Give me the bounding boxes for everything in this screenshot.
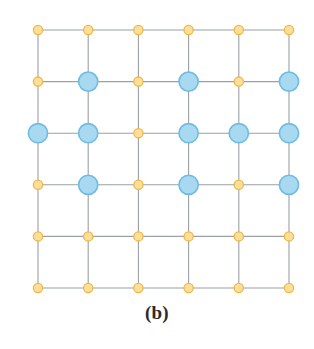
lattice-diagram [0, 0, 314, 310]
plain-site-node [33, 25, 42, 34]
plain-site-node [284, 25, 293, 34]
plain-site-node [234, 283, 243, 292]
plain-site-node [184, 25, 193, 34]
plain-site-node [284, 232, 293, 241]
plain-site-node [234, 25, 243, 34]
plain-site-node [184, 232, 193, 241]
plain-site-node [134, 77, 143, 86]
plain-site-node [234, 180, 243, 189]
plain-site-node [134, 25, 143, 34]
plain-site-node [234, 232, 243, 241]
plain-site-node [33, 283, 42, 292]
plain-site-node [134, 283, 143, 292]
lattice-node-layer [28, 25, 298, 292]
plain-site-node [134, 180, 143, 189]
marked-site-node [179, 175, 198, 194]
lattice-edge-layer [38, 30, 289, 288]
figure-container: (b) [0, 0, 314, 349]
marked-site-node [79, 124, 98, 143]
marked-site-node [279, 72, 298, 91]
plain-site-node [33, 232, 42, 241]
marked-site-node [179, 72, 198, 91]
plain-site-node [234, 77, 243, 86]
plain-site-node [84, 283, 93, 292]
plain-site-node [184, 283, 193, 292]
plain-site-node [84, 25, 93, 34]
marked-site-node [279, 124, 298, 143]
plain-site-node [284, 283, 293, 292]
plain-site-node [84, 232, 93, 241]
marked-site-node [279, 175, 298, 194]
marked-site-node [79, 175, 98, 194]
plain-site-node [134, 232, 143, 241]
marked-site-node [229, 124, 248, 143]
marked-site-node [179, 124, 198, 143]
marked-site-node [28, 124, 47, 143]
plain-site-node [33, 180, 42, 189]
marked-site-node [79, 72, 98, 91]
plain-site-node [134, 129, 143, 138]
plain-site-node [33, 77, 42, 86]
figure-caption: (b) [0, 302, 314, 324]
